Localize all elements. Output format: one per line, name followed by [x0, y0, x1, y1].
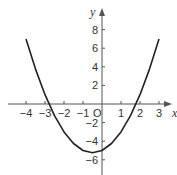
y-tick-label: 2: [92, 79, 98, 91]
y-tick-label: 4: [92, 61, 98, 73]
y-tick-label: −6: [85, 154, 98, 166]
axes: [8, 8, 172, 175]
origin-label: O: [93, 107, 102, 119]
y-axis-label: y: [89, 5, 96, 19]
x-tick-label: 3: [156, 107, 162, 119]
y-tick-label: −4: [85, 135, 98, 147]
x-tick-label: 1: [118, 107, 124, 119]
parabola-chart: −4−3−2−11238642−2−4−6 x y O: [0, 0, 177, 175]
x-axis-label: x: [171, 106, 177, 120]
x-tick-label: −3: [39, 107, 52, 119]
x-axis-arrow-icon: [164, 101, 172, 107]
x-tick-label: −2: [58, 107, 71, 119]
y-axis-arrow-icon: [99, 8, 105, 16]
x-tick-label: −4: [20, 107, 33, 119]
y-tick-label: 6: [92, 42, 98, 54]
x-tick-label: 2: [137, 107, 143, 119]
y-tick-label: 8: [92, 24, 98, 36]
